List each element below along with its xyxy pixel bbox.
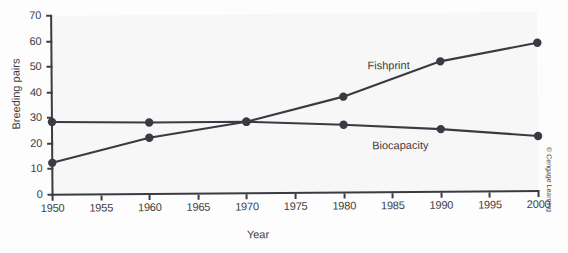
series-line-biocapacity [52,118,538,140]
data-point [533,38,541,46]
data-point [48,159,56,167]
series-line-fishprint [51,43,538,163]
data-point [48,118,56,126]
data-point [145,134,153,142]
data-point [534,132,542,140]
chart-skew-wrapper: 010203040506070 195019551960196519701975… [0,0,568,253]
data-point [437,125,445,133]
data-point [242,117,250,125]
data-point [339,92,347,100]
x-axis-title: Year [247,228,269,240]
data-point [436,57,444,65]
data-point [145,118,153,126]
copyright-credit: © Cengage Learning [546,133,554,225]
data-series-layer [0,0,568,253]
data-point [339,121,347,129]
series-label-fishprint: Fishprint [367,59,409,71]
series-label-biocapacity: Biocapacity [372,139,428,151]
y-axis-title: Breeding pairs [9,44,22,144]
chart-figure: 010203040506070 195019551960196519701975… [0,0,568,253]
